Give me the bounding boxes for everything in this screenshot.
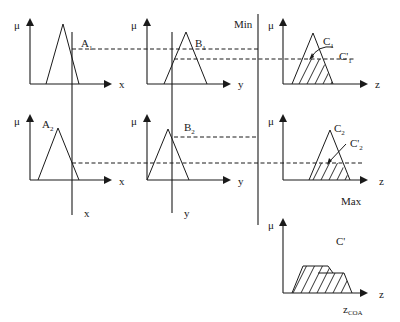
mu-axis-label: μ xyxy=(268,19,274,31)
fuzzy-inference-diagram: μ x A1 μ y B1 Min μ z C1 C'1 xyxy=(0,0,400,322)
label-b2: B2 xyxy=(184,121,195,136)
membership-triangle-c2 xyxy=(309,130,350,180)
mu-axis-label: μ xyxy=(131,115,137,127)
z-axis-label: z xyxy=(379,175,384,187)
x-axis-label: x xyxy=(119,175,125,187)
panel-b1: μ y B1 xyxy=(131,19,244,90)
pointer-c2 xyxy=(329,144,346,162)
z-axis-label: z xyxy=(375,78,380,90)
mu-axis-label: μ xyxy=(268,115,274,127)
label-c1-clipped: C'1 xyxy=(339,50,352,65)
mu-axis-label: μ xyxy=(14,19,20,31)
label-c2: C2 xyxy=(334,122,345,137)
label-a2: A2 xyxy=(42,118,54,133)
label-b1: B1 xyxy=(195,37,206,52)
z-axis-label: z xyxy=(379,288,384,300)
membership-triangle-a2 xyxy=(38,128,79,180)
label-aggregate: C' xyxy=(336,235,345,247)
mu-axis-label: μ xyxy=(268,219,274,231)
input-x-label: x xyxy=(84,207,90,219)
panel-c1: μ z C1 C'1 xyxy=(268,19,380,90)
y-axis-label: y xyxy=(238,78,244,90)
panel-b2: μ y B2 xyxy=(131,115,244,187)
panel-aggregate-output: μ z C' zCOA xyxy=(268,219,384,317)
y-axis-label: y xyxy=(238,175,244,187)
max-operator-label: Max xyxy=(341,195,362,207)
label-a1: A1 xyxy=(81,37,93,52)
membership-triangle-a1 xyxy=(46,24,79,84)
panel-a2: μ x A2 xyxy=(14,115,125,187)
label-z-coa: zCOA xyxy=(343,303,363,317)
mu-axis-label: μ xyxy=(131,19,137,31)
label-c2-clipped: C'2 xyxy=(350,137,363,152)
min-operator-label: Min xyxy=(234,18,253,30)
panel-c2: μ z C2 C'2 xyxy=(268,115,384,187)
input-y-label: y xyxy=(184,207,190,219)
panel-a1: μ x A1 xyxy=(14,19,125,90)
x-axis-label: x xyxy=(119,78,125,90)
label-c1: C1 xyxy=(323,35,334,50)
mu-axis-label: μ xyxy=(14,115,20,127)
